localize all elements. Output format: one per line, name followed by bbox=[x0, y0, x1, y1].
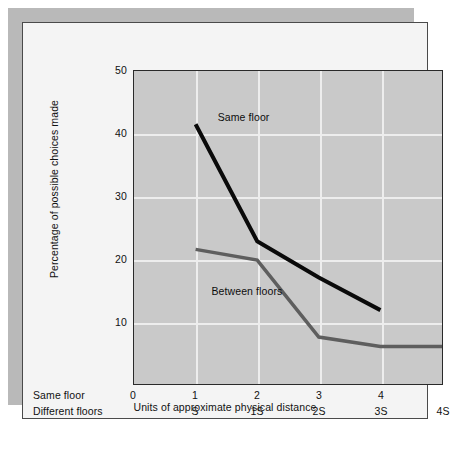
series-annotation-label: Between floors bbox=[212, 285, 283, 297]
plot-area: Same floorBetween floors bbox=[133, 70, 443, 385]
figure-card: Percentage of possible choices made 5040… bbox=[22, 22, 428, 419]
x-tick-label: 4S bbox=[436, 405, 449, 417]
x-tick-label: 0 bbox=[130, 389, 136, 401]
y-tick-label: 30 bbox=[99, 190, 127, 202]
series-line bbox=[196, 249, 442, 346]
y-tick-label: 10 bbox=[99, 316, 127, 328]
x-tick-label: 2 bbox=[254, 389, 260, 401]
series-line bbox=[196, 124, 381, 310]
x-tick-label: 1 bbox=[192, 389, 198, 401]
y-tick-label: 40 bbox=[99, 127, 127, 139]
x-axis-row-title: Same floor bbox=[33, 389, 85, 401]
chart-figure: Percentage of possible choices made 5040… bbox=[0, 0, 457, 457]
x-axis-title: Units of approximate physical distance bbox=[23, 401, 427, 413]
series-annotation-label: Same floor bbox=[218, 111, 270, 123]
y-axis-title: Percentage of possible choices made bbox=[48, 94, 60, 284]
x-tick-label: 4 bbox=[378, 389, 384, 401]
data-lines bbox=[134, 71, 442, 384]
y-tick-label: 50 bbox=[99, 64, 127, 76]
x-tick-label: 3 bbox=[316, 389, 322, 401]
y-tick-label: 20 bbox=[99, 253, 127, 265]
y-axis-tick-labels: 5040302010 bbox=[99, 70, 127, 385]
